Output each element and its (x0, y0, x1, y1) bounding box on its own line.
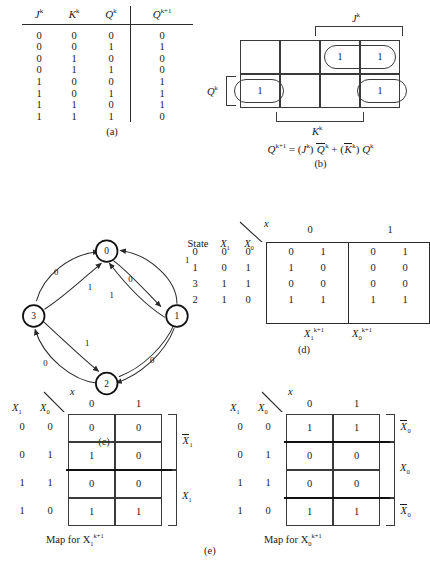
kmap-value-r3c0-map-x0: 1 (286, 498, 333, 526)
kmap-b-cell-r1c2 (320, 74, 360, 108)
edge-label-3-2: 1 (85, 338, 89, 348)
panel-b-kmap: Jk 1 1 1 1 Qk Kk (218, 40, 423, 169)
table-row: 1001 (22, 76, 193, 88)
edge-1-to-0-inner (109, 263, 164, 317)
cell-q: 1 (92, 87, 131, 99)
next-x0-when-x1: 1 (398, 294, 412, 305)
kmap-value-r0c0-map-x1: 0 (68, 414, 115, 442)
row-label-x1-1-map-x1: 0 (14, 449, 30, 460)
kmap-b-cell-r0c1 (280, 40, 320, 74)
table-row: 0000 (22, 24, 193, 41)
panel-e-map-x1: xX1X0010000011011001011X1X1Map for X1k+1 (10, 388, 210, 538)
row-label-x0-1-map-x1: 1 (42, 449, 58, 460)
kmap-value-r2c1-map-x1: 0 (115, 470, 162, 498)
panel-b-caption: (b) (218, 158, 423, 169)
group-label-1-map-x1: X1 (182, 490, 192, 503)
state-node-0[interactable]: 0 (96, 240, 118, 262)
cell-j: 1 (22, 76, 56, 88)
state-cell: 3 (188, 278, 202, 289)
row-label-x1-2-map-x0: 1 (232, 477, 248, 488)
state-cell: 0 (188, 246, 202, 257)
cell-q-next: 0 (131, 53, 194, 65)
x-value-header-1: 1 (350, 224, 430, 235)
cell-q: 1 (92, 111, 131, 123)
next-x0-when-x1: 0 (398, 262, 412, 273)
bracket-kk (276, 112, 364, 122)
panel-e-map-x0: xX1X0010011010011001011X0X0X0Map for X0k… (228, 388, 428, 538)
input-var-x-map-x0: x (288, 386, 293, 397)
edge-label-1-2: 0 (150, 355, 155, 365)
kmap-value-r2c0-map-x1: 0 (68, 470, 115, 498)
cell-q: 0 (92, 99, 131, 111)
jk-truth-table: Jk Kk Qk Qk+1 00000011010001101001101111… (22, 6, 193, 122)
kmap-b-value-r0c2: 1 (320, 40, 360, 74)
col-label-0-map-x0: 0 (286, 398, 333, 409)
next-x0-when-x1: 0 (398, 278, 412, 289)
panel-d-state-table: x State X1 X0 0 1 0000101101100031100002… (186, 216, 426, 355)
kmap-b-value-r0c3: 1 (360, 40, 400, 74)
cell-j: 1 (22, 99, 56, 111)
input-var-x-map-x1: x (70, 386, 75, 397)
map-caption-map-x1: Map for X1k+1 (46, 532, 104, 547)
cell-q-next: 1 (131, 41, 194, 53)
next-x1-when-x0: 1 (284, 262, 298, 273)
panel-e-caption: (e) (204, 545, 216, 556)
edge-3-to-2 (43, 321, 98, 371)
header-k: Kk (56, 6, 92, 24)
edge-label-2-3: 0 (43, 358, 48, 368)
edge-label-0-1-inner: 0 (128, 274, 133, 284)
svg-text:0: 0 (104, 246, 109, 256)
svg-text:1: 1 (175, 311, 180, 321)
bottom-label-x0: X0k+1 (332, 326, 392, 341)
state-node-3[interactable]: 3 (23, 305, 45, 327)
kmap-x0-area: xX1X0010011010011001011X0X0X0Map for X0k… (228, 388, 418, 538)
kmap-value-r0c0-map-x0: 1 (286, 414, 333, 442)
table-row: 0110 (22, 64, 193, 76)
kmap-value-r2c1-map-x0: 0 (333, 470, 380, 498)
cell-q: 1 (92, 64, 131, 76)
state-node-1[interactable]: 1 (166, 305, 188, 327)
rowvar-x1-map-x1: X1 (12, 402, 22, 415)
rowvar-x0-map-x1: X0 (40, 402, 50, 415)
group-bracket-1-map-x1 (168, 470, 177, 526)
edge-label-1-0-inner: 1 (109, 290, 113, 300)
cell-k: 1 (56, 64, 92, 76)
panel-a-truth-table: Jk Kk Qk Qk+1 00000011010001101001101111… (22, 6, 202, 137)
row-label-x0-0-map-x1: 0 (42, 421, 58, 432)
state-cell: 1 (188, 262, 202, 273)
next-x1-when-x1: 0 (366, 278, 380, 289)
next-x0-when-x0: 0 (316, 262, 330, 273)
kmap-value-r1c0-map-x0: 0 (286, 442, 333, 470)
row-label-x0-2-map-x1: 1 (42, 477, 58, 488)
cell-q: 1 (92, 41, 131, 53)
x1-cell: 0 (217, 262, 231, 273)
table-body: 00000011010001101001101111011110 (22, 24, 193, 122)
kmap-b-value-r1c0: 1 (240, 74, 280, 108)
cell-q: 0 (92, 76, 131, 88)
row-label-x1-3-map-x1: 1 (14, 505, 30, 516)
row-label-x1-2-map-x1: 1 (14, 477, 30, 488)
table-row: 0100 (22, 53, 193, 65)
group-bracket-0-map-x1 (168, 414, 177, 470)
bracket-kk-label: Kk (312, 124, 322, 137)
row-label-x1-3-map-x0: 1 (232, 505, 248, 516)
cell-k: 1 (56, 111, 92, 123)
state-table-area: x State X1 X0 0 1 0000101101100031100002… (186, 216, 422, 334)
state-cell: 2 (188, 294, 202, 305)
next-x0-when-x1: 1 (398, 246, 412, 257)
cell-j: 0 (22, 53, 56, 65)
next-x1-when-x0: 0 (284, 278, 298, 289)
kmap-value-r1c1-map-x0: 0 (333, 442, 380, 470)
kmap-x1-area: xX1X0010000011011001011X1X1Map for X1k+1 (10, 388, 200, 538)
group-label-1-map-x0: X0 (400, 462, 410, 475)
cell-q: 0 (92, 53, 131, 65)
x-value-header-0: 0 (270, 224, 350, 235)
next-x0-when-x0: 0 (316, 278, 330, 289)
cell-q-next: 1 (131, 99, 194, 111)
col-label-1-map-x0: 1 (333, 398, 380, 409)
group-bracket-2-map-x0 (386, 498, 395, 526)
col-label-0-map-x1: 0 (68, 398, 115, 409)
row-label-x1-0-map-x1: 0 (14, 421, 30, 432)
row-label-x0-3-map-x1: 0 (42, 505, 58, 516)
cell-q-next: 0 (131, 24, 194, 41)
